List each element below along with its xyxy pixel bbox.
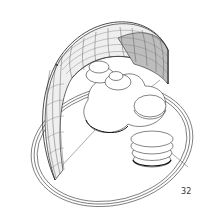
figure-number: 32 xyxy=(181,187,192,196)
dome-drawing xyxy=(0,0,209,214)
dome-marker xyxy=(56,64,58,66)
sculpture-form xyxy=(84,61,173,167)
technical-illustration: 32 xyxy=(0,0,209,214)
